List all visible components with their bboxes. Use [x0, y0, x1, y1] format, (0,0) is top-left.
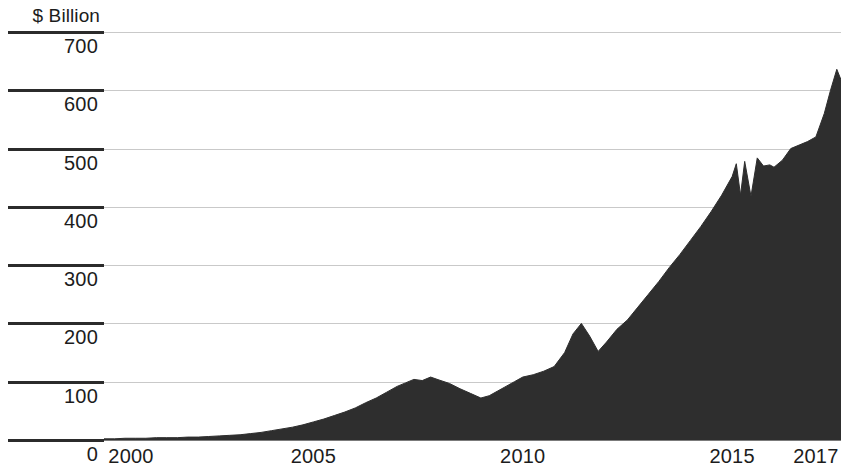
y-tick-mark: [8, 148, 104, 151]
x-tick-label: 2010: [500, 444, 545, 468]
y-tick-mark: [8, 264, 104, 267]
y-tick-label: 100: [0, 385, 98, 407]
y-tick-label: 500: [0, 152, 98, 174]
y-tick-label: 400: [0, 210, 98, 232]
y-tick-label: 0: [0, 443, 98, 465]
y-tick-label: 200: [0, 326, 98, 348]
y-tick-mark: [8, 322, 104, 325]
area-series-graphic: [104, 0, 841, 443]
y-tick-label: 600: [0, 93, 98, 115]
y-tick-label: 700: [0, 35, 98, 57]
area-series-path: [104, 69, 841, 440]
x-tick-label: 2000: [108, 444, 153, 468]
x-axis-baseline: [8, 439, 104, 442]
y-tick-mark: [8, 206, 104, 209]
x-tick-label: 2017: [793, 444, 838, 468]
x-tick-label: 2005: [291, 444, 336, 468]
x-tick-label: 2015: [709, 444, 754, 468]
area-chart: $ Billion 0100200300400500600700 2000200…: [0, 0, 841, 470]
y-tick-mark: [8, 89, 104, 92]
y-axis-unit-label: $ Billion: [0, 5, 100, 27]
y-tick-label: 300: [0, 268, 98, 290]
y-tick-mark: [8, 31, 104, 34]
y-tick-mark: [8, 381, 104, 384]
plot-area: [104, 0, 841, 443]
